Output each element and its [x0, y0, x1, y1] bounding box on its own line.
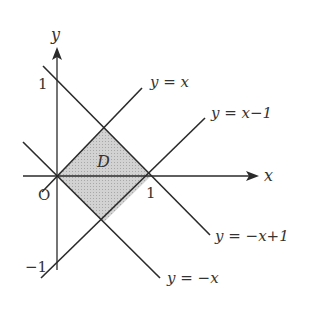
- diagram-canvas: y x O 1 1 −1 D y = x y = x−1 y = −x+1 y …: [0, 0, 318, 313]
- region-d: [57, 128, 151, 222]
- line-y-eq-neg-x-plus-1: [43, 66, 210, 235]
- tick-x-one: 1: [146, 184, 156, 202]
- tick-y-one: 1: [38, 75, 48, 93]
- tick-y-minus-one: −1: [25, 258, 47, 276]
- origin-label: O: [38, 186, 50, 204]
- label-y-eq-x-minus-1: y = x−1: [210, 104, 272, 122]
- y-axis-label: y: [50, 25, 61, 44]
- label-y-eq-neg-x-plus-1: y = −x+1: [214, 227, 289, 245]
- line-y-eq-x-minus-1: [41, 118, 205, 278]
- label-y-eq-x: y = x: [149, 73, 190, 91]
- region-label: D: [96, 152, 110, 171]
- label-y-eq-neg-x: y = −x: [166, 269, 219, 287]
- x-axis-label: x: [264, 166, 273, 185]
